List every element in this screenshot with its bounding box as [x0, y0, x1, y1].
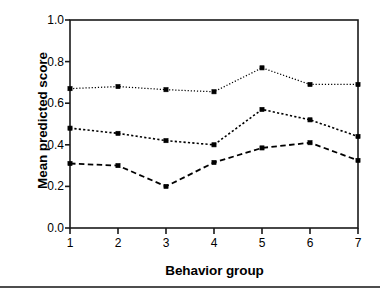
data-point-marker — [212, 160, 216, 164]
data-point-marker — [260, 107, 264, 111]
data-point-marker — [68, 87, 72, 91]
data-point-marker — [116, 131, 120, 135]
data-series-upper — [68, 66, 360, 94]
data-series-lower — [68, 141, 360, 189]
axes-frame — [70, 20, 358, 228]
data-point-marker — [116, 84, 120, 88]
data-point-marker — [308, 141, 312, 145]
data-point-marker — [260, 146, 264, 150]
x-axis-title: Behavior group — [70, 263, 359, 278]
x-axis-tick-label: 4 — [199, 237, 229, 249]
chart-figure: Mean predicted score 1.00.80.60.40.20.0 … — [0, 0, 380, 291]
data-point-marker — [68, 161, 72, 165]
axis-tick-marks — [65, 20, 358, 234]
x-axis-tick-label: 5 — [247, 237, 277, 249]
data-point-marker — [212, 90, 216, 94]
x-axis-tick-label: 2 — [103, 237, 133, 249]
data-point-marker — [356, 134, 360, 138]
data-point-marker — [308, 82, 312, 86]
x-axis-tick-label: 1 — [55, 237, 85, 249]
bottom-divider-rule — [0, 286, 380, 288]
data-series-group — [68, 66, 360, 189]
data-point-marker — [164, 184, 168, 188]
x-axis-tick-label: 6 — [295, 237, 325, 249]
data-point-marker — [116, 164, 120, 168]
data-point-marker — [356, 82, 360, 86]
x-axis-tick-label: 3 — [151, 237, 181, 249]
data-point-marker — [212, 143, 216, 147]
x-axis-tick-label: 7 — [343, 237, 373, 249]
data-point-marker — [164, 88, 168, 92]
data-point-marker — [68, 126, 72, 130]
data-point-marker — [308, 118, 312, 122]
data-series-middle — [68, 107, 360, 147]
x-axis-tick-labels: 1234567 — [0, 237, 380, 257]
data-point-marker — [164, 139, 168, 143]
data-point-marker — [356, 158, 360, 162]
data-point-marker — [260, 66, 264, 70]
